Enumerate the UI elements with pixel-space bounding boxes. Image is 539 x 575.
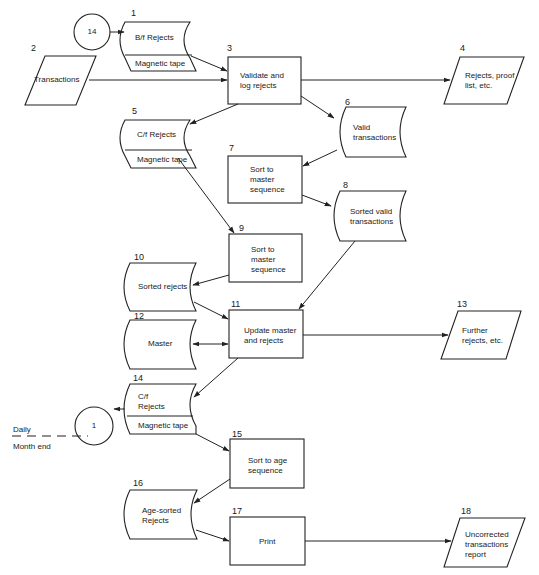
node-10-label: Sorted rejects bbox=[138, 282, 187, 292]
node-14-label-line2: Rejects bbox=[138, 402, 165, 412]
node-8-label-line1: Sorted valid bbox=[350, 207, 392, 217]
node-11-label-line2: and rejects bbox=[244, 336, 283, 346]
node-15-label-line2: sequence bbox=[248, 466, 283, 476]
node-4-label-line2: list, etc. bbox=[465, 81, 492, 91]
connector-14-label: 14 bbox=[80, 27, 104, 37]
node-7-label-line2: master bbox=[250, 175, 274, 185]
node-18-label-line3: report bbox=[465, 550, 486, 560]
node-8-number: 8 bbox=[343, 180, 348, 190]
node-9-number: 9 bbox=[239, 223, 244, 233]
node-8-label-line2: transactions bbox=[350, 217, 393, 227]
node-1-sublabel: Magnetic tape bbox=[135, 59, 185, 69]
node-7-label-line1: Sort to bbox=[250, 165, 274, 175]
node-3-label-line2: log rejects bbox=[240, 81, 276, 91]
node-5-number: 5 bbox=[132, 106, 137, 116]
connector-1-label: 1 bbox=[82, 421, 106, 431]
node-13-label-line2: rejects, etc. bbox=[462, 336, 503, 346]
node-13-label-line1: Further bbox=[462, 326, 488, 336]
node-16-label-line2: Rejects bbox=[142, 516, 169, 526]
node-18-number: 18 bbox=[461, 506, 471, 516]
node-14-number: 14 bbox=[133, 373, 143, 383]
node-12-number: 12 bbox=[134, 311, 144, 321]
node-1-number: 1 bbox=[131, 8, 136, 18]
node-11-number: 11 bbox=[231, 299, 240, 309]
node-15-label-line1: Sort to age bbox=[248, 456, 287, 466]
node-5-sublabel: Magnetic tape bbox=[137, 155, 187, 165]
node-6-label-line2: transactions bbox=[353, 133, 396, 143]
node-7-number: 7 bbox=[229, 143, 234, 153]
node-16-number: 16 bbox=[133, 478, 143, 488]
node-3-number: 3 bbox=[227, 43, 232, 53]
node-16-label-line1: Age-sorted bbox=[142, 506, 181, 516]
node-18-label-line2: transactions bbox=[465, 540, 508, 550]
node-7-label-line3: sequence bbox=[250, 185, 285, 195]
node-2-number: 2 bbox=[31, 43, 36, 53]
node-6-shape bbox=[340, 107, 406, 157]
node-13-number: 13 bbox=[457, 299, 467, 309]
node-3-label-line1: Validate and bbox=[240, 71, 284, 81]
legend-daily: Daily bbox=[13, 425, 31, 435]
node-12-label: Master bbox=[148, 339, 172, 349]
flowchart-canvas: 14 1 1 B/f Rejects Magnetic tape 2 Trans… bbox=[0, 0, 539, 575]
node-10-number: 10 bbox=[134, 252, 144, 262]
node-15-number: 15 bbox=[232, 429, 242, 439]
node-17-number: 17 bbox=[232, 506, 242, 516]
node-4-number: 4 bbox=[460, 43, 465, 53]
node-6-number: 6 bbox=[345, 97, 350, 107]
node-17-label: Print bbox=[259, 537, 275, 547]
node-4-label-line1: Rejects, proof bbox=[465, 71, 514, 81]
node-5-label: C/f Rejects bbox=[137, 130, 176, 140]
node-2-label: Transactions bbox=[34, 75, 80, 85]
node-14-label-line1: C/f bbox=[138, 392, 148, 402]
node-1-label: B/f Rejects bbox=[135, 33, 174, 43]
node-6-label-line1: Valid bbox=[353, 123, 370, 133]
node-9-label-line3: sequence bbox=[251, 265, 286, 275]
node-11-label-line1: Update master bbox=[244, 326, 296, 336]
node-18-label-line1: Uncorrected bbox=[465, 530, 509, 540]
legend-month-end: Month end bbox=[13, 442, 51, 452]
node-14-sublabel: Magnetic tape bbox=[138, 421, 188, 431]
node-9-label-line2: master bbox=[251, 255, 275, 265]
node-9-label-line1: Sort to bbox=[251, 245, 275, 255]
